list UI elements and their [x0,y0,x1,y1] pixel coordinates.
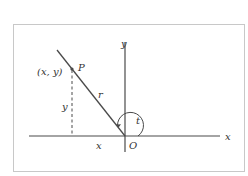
point-p-label: P [77,62,85,73]
point-coordinates-label: (x, y) [37,66,63,77]
vertical-segment-label: y [61,101,68,112]
x-axis-label: x [225,131,231,142]
point-p-dot [70,67,73,70]
y-axis-label: y [120,38,127,49]
horizontal-segment-label: x [96,140,102,151]
polar-coordinate-diagram: y x O P (x, y) r t y x [0,0,248,176]
radius-label: r [98,89,104,100]
origin-label: O [129,140,137,151]
radius-line [57,50,125,136]
